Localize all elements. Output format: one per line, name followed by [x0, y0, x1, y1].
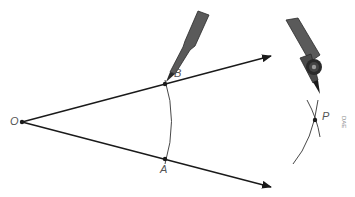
compass-pencil-icon [166, 11, 209, 82]
point-O [20, 120, 24, 124]
label-P: P [322, 110, 329, 122]
diagram-canvas [0, 0, 355, 197]
label-O: O [10, 115, 19, 127]
label-A: A [160, 163, 167, 175]
point-A [163, 157, 167, 161]
compass-hinge-icon [286, 18, 322, 94]
ray-OB [22, 56, 271, 122]
label-B: B [174, 67, 181, 79]
point-B [163, 82, 167, 86]
ray-OA [22, 122, 271, 187]
arc-near-P-large [293, 100, 318, 164]
point-P [313, 118, 317, 122]
figure-code: DAE [341, 116, 347, 128]
angle-construction-diagram: O B A P DAE [0, 0, 355, 197]
arc-AB [165, 80, 172, 164]
